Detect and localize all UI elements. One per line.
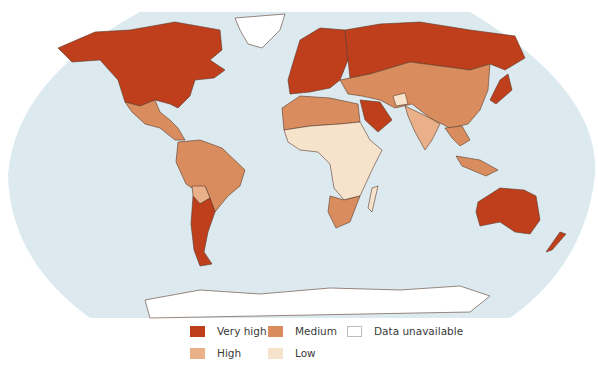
legend-label: Low (295, 347, 316, 359)
swatch-medium (268, 326, 283, 337)
legend-item-high: High (190, 347, 241, 359)
legend-label: High (217, 347, 241, 359)
swatch-very-high (190, 326, 205, 337)
legend-item-very-high: Very high (190, 325, 267, 337)
world-map (0, 0, 598, 320)
legend-item-data-unavailable: Data unavailable (347, 325, 463, 337)
legend-item-low: Low (268, 347, 316, 359)
map-legend: Very high Medium Data unavailable High L… (190, 321, 490, 367)
legend-label: Data unavailable (374, 325, 463, 337)
legend-label: Very high (217, 325, 267, 337)
swatch-low (268, 348, 283, 359)
swatch-data-unavailable (347, 326, 362, 337)
swatch-high (190, 348, 205, 359)
legend-label: Medium (295, 325, 337, 337)
legend-item-medium: Medium (268, 325, 337, 337)
